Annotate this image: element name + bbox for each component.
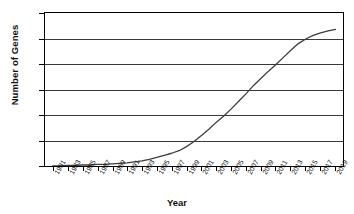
gridline (45, 115, 343, 116)
y-axis-tick-mark (39, 64, 44, 65)
y-axis-title: Number of Genes (9, 0, 23, 130)
y-axis-tick-mark (39, 166, 44, 167)
gridline (45, 141, 343, 142)
gridline (45, 90, 343, 91)
gridline (45, 64, 343, 65)
y-axis-tick-mark (39, 115, 44, 116)
y-axis-tick-mark (39, 141, 44, 142)
y-axis-tick-mark (39, 90, 44, 91)
plot-area (44, 12, 344, 167)
y-axis-tick-mark (39, 39, 44, 40)
gene-count-line-chart: Number of Genes 050100150200250300 19811… (0, 0, 354, 214)
y-axis-tick-mark (39, 13, 44, 14)
gridline (45, 39, 343, 40)
x-axis-title: Year (0, 197, 354, 208)
